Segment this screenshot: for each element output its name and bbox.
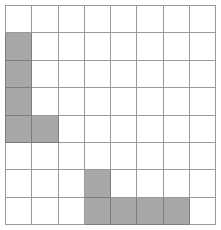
grid-cell-r3-c2[interactable]	[58, 88, 84, 115]
grid-cell-r0-c1[interactable]	[32, 6, 58, 33]
grid-cell-r7-c3[interactable]	[84, 197, 110, 224]
grid-cell-r0-c4[interactable]	[111, 6, 137, 33]
grid-cell-r7-c2[interactable]	[58, 197, 84, 224]
grid-row	[6, 170, 216, 197]
grid-figure	[0, 0, 221, 230]
grid-row	[6, 115, 216, 142]
grid-row	[6, 88, 216, 115]
grid-cell-r1-c3[interactable]	[84, 33, 110, 60]
grid-row	[6, 60, 216, 87]
grid-cell-r0-c7[interactable]	[189, 6, 215, 33]
grid-cell-r2-c6[interactable]	[163, 60, 189, 87]
grid-cell-r3-c4[interactable]	[111, 88, 137, 115]
grid-cell-r1-c6[interactable]	[163, 33, 189, 60]
grid-cell-r3-c5[interactable]	[137, 88, 163, 115]
grid-cell-r5-c5[interactable]	[137, 142, 163, 169]
grid-cell-r6-c1[interactable]	[32, 170, 58, 197]
grid-cell-r7-c7[interactable]	[189, 197, 215, 224]
grid-cell-r4-c1[interactable]	[32, 115, 58, 142]
grid-row	[6, 142, 216, 169]
grid-cell-r4-c5[interactable]	[137, 115, 163, 142]
grid-cell-r0-c6[interactable]	[163, 6, 189, 33]
grid-cell-r5-c2[interactable]	[58, 142, 84, 169]
grid-cell-r7-c5[interactable]	[137, 197, 163, 224]
grid-body	[6, 6, 216, 225]
grid-cell-r4-c2[interactable]	[58, 115, 84, 142]
grid-cell-r0-c2[interactable]	[58, 6, 84, 33]
grid-cell-r0-c5[interactable]	[137, 6, 163, 33]
grid-cell-r1-c0[interactable]	[6, 33, 32, 60]
grid-row	[6, 33, 216, 60]
grid-cell-r6-c3[interactable]	[84, 170, 110, 197]
grid-cell-r4-c4[interactable]	[111, 115, 137, 142]
grid-cell-r2-c3[interactable]	[84, 60, 110, 87]
grid-cell-r2-c7[interactable]	[189, 60, 215, 87]
grid-cell-r3-c1[interactable]	[32, 88, 58, 115]
grid-cell-r4-c3[interactable]	[84, 115, 110, 142]
grid-cell-r5-c0[interactable]	[6, 142, 32, 169]
grid-row	[6, 6, 216, 33]
grid-cell-r2-c0[interactable]	[6, 60, 32, 87]
grid-cell-r5-c4[interactable]	[111, 142, 137, 169]
grid-cell-r6-c0[interactable]	[6, 170, 32, 197]
grid-cell-r6-c6[interactable]	[163, 170, 189, 197]
grid-cell-r1-c5[interactable]	[137, 33, 163, 60]
grid-cell-r7-c6[interactable]	[163, 197, 189, 224]
grid-cell-r3-c7[interactable]	[189, 88, 215, 115]
grid-cell-r2-c4[interactable]	[111, 60, 137, 87]
grid-cell-r5-c6[interactable]	[163, 142, 189, 169]
grid-cell-r5-c3[interactable]	[84, 142, 110, 169]
grid-cell-r3-c6[interactable]	[163, 88, 189, 115]
grid-cell-r1-c7[interactable]	[189, 33, 215, 60]
grid-cell-r6-c5[interactable]	[137, 170, 163, 197]
grid-cell-r5-c1[interactable]	[32, 142, 58, 169]
grid-cell-r1-c2[interactable]	[58, 33, 84, 60]
grid-cell-r1-c4[interactable]	[111, 33, 137, 60]
grid-cell-r4-c0[interactable]	[6, 115, 32, 142]
grid-cell-r2-c2[interactable]	[58, 60, 84, 87]
grid-cell-r5-c7[interactable]	[189, 142, 215, 169]
grid-cell-r7-c4[interactable]	[111, 197, 137, 224]
grid-cell-r7-c1[interactable]	[32, 197, 58, 224]
grid-cell-r6-c4[interactable]	[111, 170, 137, 197]
grid-row	[6, 197, 216, 224]
grid-cell-r6-c7[interactable]	[189, 170, 215, 197]
grid-cell-r6-c2[interactable]	[58, 170, 84, 197]
grid-cell-r0-c0[interactable]	[6, 6, 32, 33]
grid-cell-r7-c0[interactable]	[6, 197, 32, 224]
grid-cell-r0-c3[interactable]	[84, 6, 110, 33]
grid-cell-r2-c5[interactable]	[137, 60, 163, 87]
grid-cell-r3-c3[interactable]	[84, 88, 110, 115]
grid-cell-r3-c0[interactable]	[6, 88, 32, 115]
grid-cell-r2-c1[interactable]	[32, 60, 58, 87]
grid-cell-r4-c6[interactable]	[163, 115, 189, 142]
shaded-grid[interactable]	[5, 5, 216, 225]
grid-cell-r1-c1[interactable]	[32, 33, 58, 60]
grid-cell-r4-c7[interactable]	[189, 115, 215, 142]
